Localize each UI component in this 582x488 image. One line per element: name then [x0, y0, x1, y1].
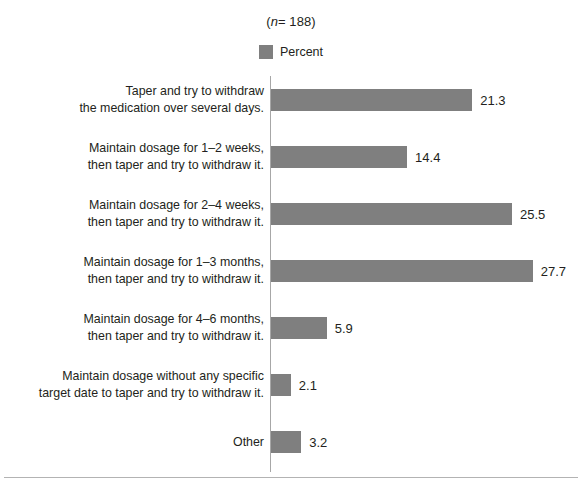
footer-divider [4, 477, 578, 478]
bar-value-label: 27.7 [541, 264, 566, 279]
category-label: Maintain dosage without any specific tar… [2, 368, 264, 402]
chart-row: Other 3.2 [0, 414, 582, 470]
chart-row: Maintain dosage without any specific tar… [0, 357, 582, 413]
bar-value-label: 14.4 [415, 150, 440, 165]
bar-chart-figure: (n= 188) Percent Taper and try to withdr… [0, 0, 582, 488]
bar-percent [271, 374, 291, 396]
category-label: Maintain dosage for 4–6 months, then tap… [2, 311, 264, 345]
category-label: Maintain dosage for 1–3 months, then tap… [2, 254, 264, 288]
bar-percent [271, 431, 301, 453]
bar-value-label: 3.2 [309, 435, 327, 450]
category-label: Maintain dosage for 1–2 weeks, then tape… [2, 140, 264, 174]
chart-row: Maintain dosage for 4–6 months, then tap… [0, 300, 582, 356]
bar-value-label: 25.5 [520, 207, 545, 222]
bar-percent [271, 89, 472, 111]
chart-title-value: = 188) [278, 14, 316, 29]
chart-row: Maintain dosage for 1–3 months, then tap… [0, 243, 582, 299]
bar-percent [271, 260, 533, 282]
legend-label-percent: Percent [280, 45, 323, 59]
bar-percent [271, 203, 512, 225]
bar-percent [271, 317, 327, 339]
chart-row: Maintain dosage for 2–4 weeks, then tape… [0, 186, 582, 242]
bar-percent [271, 146, 407, 168]
chart-title: (n= 188) [0, 14, 582, 29]
category-label: Other [2, 434, 264, 451]
category-label: Maintain dosage for 2–4 weeks, then tape… [2, 197, 264, 231]
bar-value-label: 2.1 [299, 378, 317, 393]
plot-area: Taper and try to withdraw the medication… [0, 72, 582, 474]
bar-value-label: 21.3 [480, 93, 505, 108]
chart-row: Maintain dosage for 1–2 weeks, then tape… [0, 129, 582, 185]
category-label: Taper and try to withdraw the medication… [2, 83, 264, 117]
chart-row: Taper and try to withdraw the medication… [0, 72, 582, 128]
chart-legend: Percent [0, 45, 582, 59]
bar-value-label: 5.9 [335, 321, 353, 336]
chart-title-n-italic: n [271, 14, 278, 29]
legend-swatch-percent [259, 45, 273, 59]
